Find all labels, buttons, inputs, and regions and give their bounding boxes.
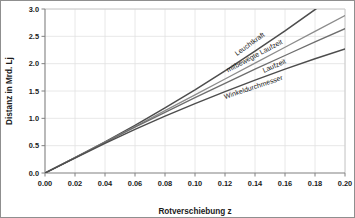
x-tick-label: 0.06 bbox=[128, 179, 142, 188]
x-tick-label: 0.16 bbox=[278, 179, 292, 188]
y-tick-label: 2.0 bbox=[29, 59, 39, 68]
x-tick-labels: 0.000.020.040.060.080.100.120.140.160.18… bbox=[38, 179, 352, 188]
x-tick-label: 0.04 bbox=[98, 179, 113, 188]
x-tick-label: 0.08 bbox=[158, 179, 172, 188]
chart-plot: 0.000.020.040.060.080.100.120.140.160.18… bbox=[1, 1, 355, 218]
gridlines bbox=[45, 9, 345, 173]
x-tick-label: 0.02 bbox=[68, 179, 82, 188]
series-label-3: Winkeldurchmesser bbox=[223, 74, 284, 100]
x-axis-title: Rotverschiebung z bbox=[158, 207, 231, 216]
x-tick-label: 0.20 bbox=[338, 179, 352, 188]
y-tick-label: 2.5 bbox=[29, 32, 39, 41]
x-tick-label: 0.12 bbox=[218, 179, 232, 188]
y-tick-label: 0.5 bbox=[29, 141, 39, 150]
y-tick-label: 0.0 bbox=[29, 169, 39, 178]
x-tick-label: 0.00 bbox=[38, 179, 52, 188]
x-tick-label: 0.10 bbox=[188, 179, 202, 188]
y-tick-labels: 0.00.51.01.52.02.53.0 bbox=[29, 5, 39, 178]
y-tick-label: 3.0 bbox=[29, 5, 39, 14]
y-axis-title: Distanz in Mrd. Lj bbox=[5, 57, 14, 125]
x-tick-label: 0.14 bbox=[248, 179, 263, 188]
y-tick-label: 1.0 bbox=[29, 114, 39, 123]
x-tick-label: 0.18 bbox=[308, 179, 322, 188]
chart-container: 0.000.020.040.060.080.100.120.140.160.18… bbox=[0, 0, 355, 218]
y-tick-label: 1.5 bbox=[29, 87, 39, 96]
